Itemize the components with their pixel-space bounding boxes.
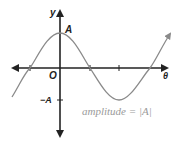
peak-label: A (64, 24, 72, 35)
theta-axis-label: θ (163, 71, 168, 81)
cosine-curve (12, 33, 170, 100)
trough-label: −A (40, 95, 52, 105)
cosine-amplitude-diagram: y θ O A −A amplitude = |A| (0, 0, 178, 147)
amplitude-annotation: amplitude = |A| (82, 105, 152, 117)
y-axis-label: y (49, 7, 56, 18)
origin-label: O (49, 70, 57, 81)
y-axis (57, 11, 63, 136)
